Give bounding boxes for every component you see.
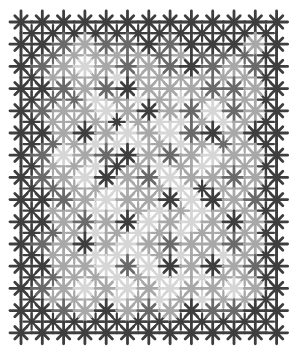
major-star-layer [10, 11, 288, 344]
star-pattern-canvas [0, 0, 299, 356]
